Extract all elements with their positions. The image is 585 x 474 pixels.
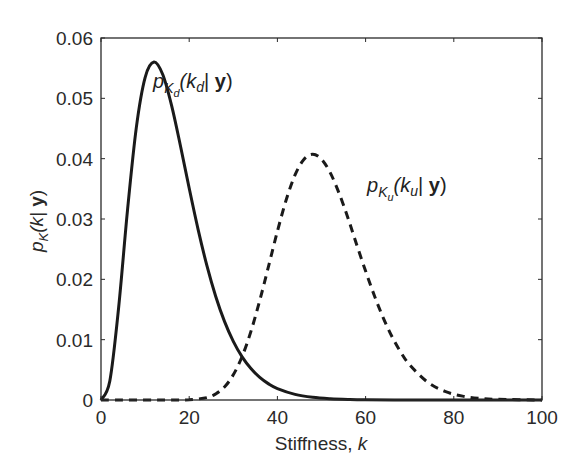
y-axis-label-close: ) <box>26 190 47 196</box>
y-tick-label: 0.06 <box>56 28 93 49</box>
x-axis-label-var: k <box>358 433 369 454</box>
x-tick-label: 40 <box>267 407 288 428</box>
x-tick-label: 100 <box>526 407 558 428</box>
y-tick-label: 0.03 <box>56 209 93 230</box>
tick-labels: 02040608010000.010.020.030.040.050.06 <box>56 28 558 428</box>
curve-kd-solid <box>101 62 542 400</box>
y-axis-label-bold: y <box>26 196 47 207</box>
chart: 02040608010000.010.020.030.040.050.06 St… <box>0 0 585 474</box>
annotation-ku-base: p <box>366 174 378 196</box>
plot-curves <box>101 62 542 400</box>
curve-ku-dashed <box>101 154 542 400</box>
annotation-ku-argsub: u <box>410 183 418 199</box>
annotation-kd-close: ) <box>226 70 233 92</box>
x-axis-label: Stiffness, k <box>275 433 369 454</box>
annotation-kd-base: p <box>152 70 164 92</box>
x-tick-label: 0 <box>96 407 107 428</box>
x-tick-label: 20 <box>179 407 200 428</box>
annotation-kd: pKd(kd| y) <box>152 70 233 99</box>
y-tick-label: 0.05 <box>56 88 93 109</box>
x-axis-label-text: Stiffness, <box>275 433 358 454</box>
annotation-kd-mid: | <box>204 70 215 92</box>
y-tick-label: 0.01 <box>56 330 93 351</box>
y-tick-label: 0.02 <box>56 269 93 290</box>
annotation-ku-mid: | <box>418 174 429 196</box>
x-tick-label: 80 <box>443 407 464 428</box>
y-tick-label: 0 <box>82 390 93 411</box>
annotation-ku-close: ) <box>440 174 447 196</box>
annotation-ku: pKu(ku| y) <box>366 174 447 203</box>
annotation-kd-open: (k <box>180 70 198 92</box>
y-axis-label-base: p <box>26 242 47 254</box>
y-axis-label: pK(k| y) <box>26 190 51 253</box>
x-tick-label: 60 <box>355 407 376 428</box>
y-axis-label-arg: (k| <box>26 207 47 233</box>
y-tick-label: 0.04 <box>56 149 93 170</box>
annotation-ku-open: (k <box>394 174 412 196</box>
